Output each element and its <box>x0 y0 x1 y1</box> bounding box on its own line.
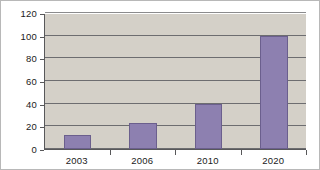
x-axis-tick-label: 2006 <box>112 156 172 166</box>
x-axis-tick-mark <box>110 150 111 155</box>
bar-slot <box>129 14 157 149</box>
y-axis-tick-label: 40 <box>1 100 37 110</box>
y-axis-tick-label: 0 <box>1 145 37 155</box>
gridline-120 <box>45 12 306 13</box>
y-axis-tick-label: 100 <box>1 32 37 42</box>
bar-2006[interactable] <box>129 123 157 149</box>
bar-slot <box>195 14 223 149</box>
x-axis-tick-mark <box>306 150 307 155</box>
bars-layer <box>45 14 306 149</box>
y-axis-tick-label: 60 <box>1 77 37 87</box>
plot-area <box>44 14 306 150</box>
x-axis-tick-label: 2003 <box>47 156 107 166</box>
bar-2003[interactable] <box>64 135 92 149</box>
bar-2010[interactable] <box>195 104 223 149</box>
x-axis-tick-mark <box>241 150 242 155</box>
x-axis-tick-label: 2020 <box>243 156 303 166</box>
bar-slot <box>64 14 92 149</box>
bar-slot <box>260 14 288 149</box>
x-axis-tick-mark <box>175 150 176 155</box>
x-axis-tick-label: 2010 <box>178 156 238 166</box>
y-axis-tick-label: 20 <box>1 123 37 133</box>
bar-chart: 020406080100120 2003200620102020 <box>0 0 320 170</box>
y-axis-tick-label: 120 <box>1 9 37 19</box>
y-axis-tick-mark <box>40 150 44 151</box>
bar-2020[interactable] <box>260 36 288 149</box>
y-axis-tick-label: 80 <box>1 55 37 65</box>
